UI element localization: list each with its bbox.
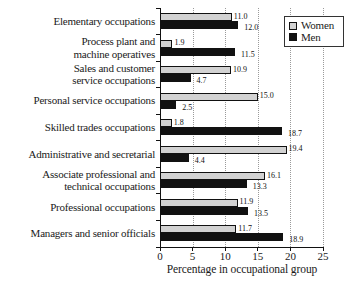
value-label: 11.5	[241, 51, 255, 59]
y-axis	[160, 8, 161, 247]
value-label: 13.3	[253, 183, 267, 191]
bar-women	[160, 66, 231, 74]
x-tick-label: 25	[312, 250, 334, 262]
value-label: 2.5	[182, 104, 192, 112]
value-label: 12.0	[244, 24, 258, 32]
category-label-line: Elementary occupations	[0, 15, 155, 28]
category-label-line: Associate professional and	[0, 168, 155, 181]
category-label-line: Personal service occupations	[0, 94, 155, 107]
bar-women	[160, 40, 172, 48]
bar-women	[160, 172, 265, 180]
category-label-line: Managers and senior officials	[0, 227, 155, 240]
women-swatch-icon	[289, 22, 297, 30]
category-label: Sales and customerservice occupations	[0, 62, 155, 87]
legend-item-women: Women	[289, 20, 339, 32]
bar-men	[160, 233, 283, 241]
bar-men	[160, 127, 282, 135]
x-tick-label: 20	[279, 250, 301, 262]
legend-label-women: Women	[301, 20, 334, 31]
bar-men	[160, 207, 248, 215]
category-label-line: Process plant and	[0, 35, 155, 48]
value-label: 4.4	[195, 157, 205, 165]
bar-men	[160, 21, 238, 29]
category-label: Skilled trades occupations	[0, 121, 155, 134]
value-label: 1.8	[174, 119, 184, 127]
category-label-line: Administrative and secretarial	[0, 148, 155, 161]
x-tick-label: 10	[214, 250, 236, 262]
x-axis	[160, 247, 324, 248]
category-label: Personal service occupations	[0, 94, 155, 107]
men-swatch-icon	[289, 33, 297, 41]
bar-men	[160, 101, 176, 109]
category-label: Administrative and secretarial	[0, 148, 155, 161]
value-label: 18.7	[288, 130, 302, 138]
x-tick-label: 0	[149, 250, 171, 262]
category-label: Professional occupations	[0, 201, 155, 214]
bar-women	[160, 225, 236, 233]
bar-men	[160, 48, 235, 56]
category-label: Elementary occupations	[0, 15, 155, 28]
value-label: 13.5	[254, 210, 268, 218]
value-label: 15.0	[260, 92, 274, 100]
category-label: Managers and senior officials	[0, 227, 155, 240]
category-label-line: Sales and customer	[0, 62, 155, 75]
value-label: 4.7	[197, 77, 207, 85]
value-label: 11.7	[238, 225, 252, 233]
legend: Women Men	[284, 16, 344, 47]
bar-women	[160, 93, 258, 101]
bar-women	[160, 199, 238, 207]
category-label-line: Skilled trades occupations	[0, 121, 155, 134]
bar-women	[160, 13, 232, 21]
value-label: 10.9	[233, 66, 247, 74]
category-label: Process plant andmachine operatives	[0, 35, 155, 60]
bar-women	[160, 119, 172, 127]
value-label: 1.9	[174, 39, 184, 47]
bar-men	[160, 74, 191, 82]
value-label: 16.1	[267, 172, 281, 180]
bar-chart-figure: Women Men Percentage in occupational gro…	[0, 0, 347, 291]
x-tick-label: 5	[182, 250, 204, 262]
bar-men	[160, 180, 247, 188]
value-label: 11.0	[234, 13, 248, 21]
value-label: 18.9	[289, 236, 303, 244]
x-axis-title: Percentage in occupational group	[142, 262, 342, 276]
category-label-line: technical occupations	[0, 180, 155, 193]
value-label: 11.9	[240, 198, 254, 206]
category-label: Associate professional andtechnical occu…	[0, 168, 155, 193]
category-label-line: Professional occupations	[0, 201, 155, 214]
legend-label-men: Men	[301, 32, 321, 43]
category-label-line: service occupations	[0, 74, 155, 87]
category-label-line: machine operatives	[0, 48, 155, 61]
legend-item-men: Men	[289, 32, 339, 44]
x-tick-label: 15	[247, 250, 269, 262]
value-label: 19.4	[289, 145, 303, 153]
bar-women	[160, 146, 287, 154]
bar-men	[160, 154, 189, 162]
